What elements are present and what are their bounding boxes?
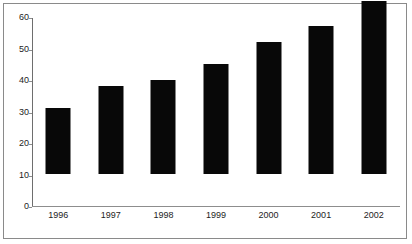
bar-slot bbox=[85, 4, 138, 207]
x-tick-label-2000: 2000 bbox=[242, 210, 295, 221]
y-tick-label-0: 0 bbox=[5, 202, 29, 211]
bar-2002 bbox=[361, 1, 386, 174]
x-tick-label-2002: 2002 bbox=[347, 210, 400, 221]
bar-slot bbox=[295, 4, 348, 207]
y-tick-mark bbox=[29, 176, 32, 177]
bars-layer bbox=[32, 4, 400, 240]
plot-area: 60 50 40 30 20 10 0 1996 1997 1998 1999 … bbox=[4, 4, 408, 240]
bar-2001 bbox=[309, 26, 334, 174]
y-tick-label-40: 40 bbox=[5, 76, 29, 85]
y-tick-mark bbox=[29, 81, 32, 82]
y-tick-mark bbox=[29, 144, 32, 145]
bar-1996 bbox=[46, 108, 71, 174]
bar-slot bbox=[242, 4, 295, 207]
y-tick-label-10: 10 bbox=[5, 171, 29, 180]
y-tick-label-50: 50 bbox=[5, 45, 29, 54]
y-tick-label-20: 20 bbox=[5, 139, 29, 148]
chart-frame: 60 50 40 30 20 10 0 1996 1997 1998 1999 … bbox=[3, 3, 407, 239]
y-tick-mark bbox=[29, 207, 32, 208]
y-tick-mark bbox=[29, 50, 32, 51]
bar-slot bbox=[190, 4, 243, 207]
x-axis-tick-labels: 1996 1997 1998 1999 2000 2001 2002 bbox=[32, 210, 400, 226]
y-axis-tick-labels: 60 50 40 30 20 10 0 bbox=[4, 4, 29, 240]
x-tick-label-2001: 2001 bbox=[295, 210, 348, 221]
y-tick-label-30: 30 bbox=[5, 108, 29, 117]
bar-1999 bbox=[203, 64, 228, 174]
y-tick-mark bbox=[29, 18, 32, 19]
bar-1997 bbox=[98, 86, 123, 174]
bar-slot bbox=[347, 4, 400, 207]
bar-2000 bbox=[256, 42, 281, 174]
bar-slot bbox=[32, 4, 85, 207]
bar-slot bbox=[137, 4, 190, 207]
y-tick-mark bbox=[29, 113, 32, 114]
x-tick-label-1996: 1996 bbox=[32, 210, 85, 221]
bar-1998 bbox=[151, 80, 176, 175]
x-tick-label-1997: 1997 bbox=[85, 210, 138, 221]
x-tick-label-1998: 1998 bbox=[137, 210, 190, 221]
x-tick-label-1999: 1999 bbox=[190, 210, 243, 221]
y-tick-label-60: 60 bbox=[5, 13, 29, 22]
